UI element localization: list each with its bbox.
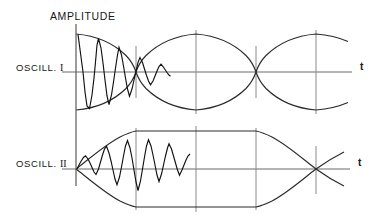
- oscillation-2-label-text: OSCILL.: [16, 158, 57, 169]
- oscillation-1-numeral: I: [60, 62, 63, 73]
- oscillation-2-group: [62, 126, 350, 212]
- oscillation-2-label: OSCILL. II: [16, 158, 67, 169]
- oscillation-1-group: [62, 30, 352, 114]
- oscillation-1-label-text: OSCILL.: [16, 62, 57, 73]
- oscillation-2-upper-envelope: [76, 131, 344, 186]
- oscillation-2-numeral: II: [60, 158, 67, 169]
- oscillation-1-time-axis-label: t: [360, 61, 364, 72]
- oscillation-2-lower-envelope: [76, 152, 344, 207]
- oscillation-beat-diagram: [0, 0, 384, 216]
- amplitude-axis-label: AMPLITUDE: [50, 10, 116, 22]
- oscillation-2-time-axis-label: t: [358, 157, 362, 168]
- oscillation-1-label: OSCILL. I: [16, 62, 63, 73]
